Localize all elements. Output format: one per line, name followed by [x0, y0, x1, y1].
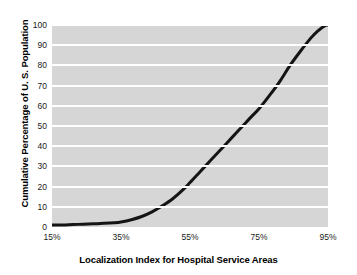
gridline	[52, 44, 328, 46]
chart-figure: Cumulative Percentage of U. S. Populatio…	[0, 0, 357, 275]
y-tick-label: 0	[7, 223, 47, 232]
x-tick-label: 75%	[234, 232, 284, 242]
x-tick-label: 35%	[96, 232, 146, 242]
gridline	[52, 64, 328, 66]
y-tick-label: 20	[7, 182, 47, 191]
y-tick-label: 100	[7, 21, 47, 30]
y-tick-label: 10	[7, 203, 47, 212]
gridline	[52, 85, 328, 87]
gridline	[52, 186, 328, 188]
y-tick-label: 30	[7, 162, 47, 171]
y-tick-label: 40	[7, 142, 47, 151]
y-tick-label: 90	[7, 41, 47, 50]
gridline	[52, 145, 328, 147]
gridline	[52, 25, 328, 26]
y-tick-label: 70	[7, 81, 47, 90]
y-tick-label: 50	[7, 122, 47, 131]
x-tick-label: 95%	[303, 232, 353, 242]
gridline	[52, 165, 328, 167]
gridline	[52, 125, 328, 127]
gridline	[52, 105, 328, 107]
x-tick-label: 55%	[165, 232, 215, 242]
gridline	[52, 206, 328, 208]
x-tick-label: 15%	[27, 232, 77, 242]
y-tick-label: 80	[7, 61, 47, 70]
x-axis-title: Localization Index for Hospital Service …	[0, 254, 357, 265]
y-tick-label: 60	[7, 102, 47, 111]
x-axis-tick-labels: 15%35%55%75%95%	[0, 232, 357, 246]
plot-area	[52, 25, 328, 227]
